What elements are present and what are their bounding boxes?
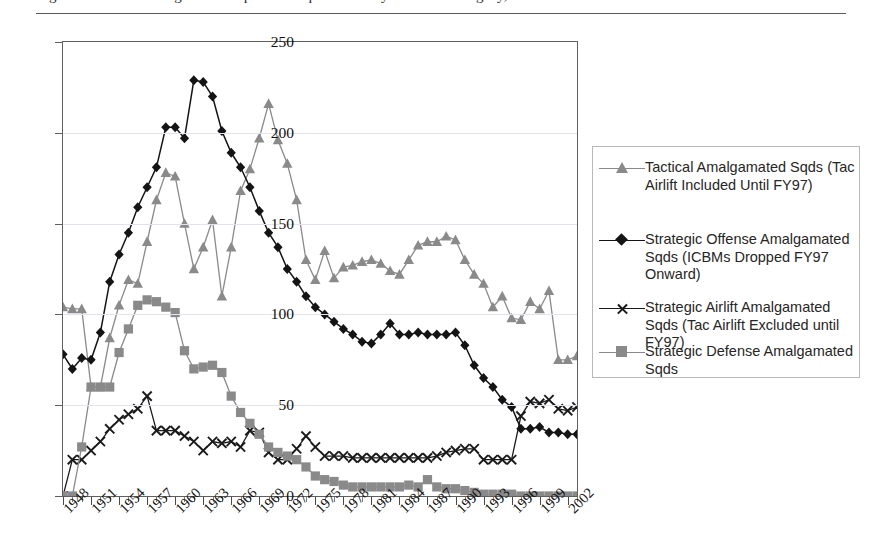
triangle-marker bbox=[282, 158, 292, 168]
square-marker bbox=[255, 430, 264, 439]
square-marker bbox=[114, 348, 123, 357]
legend-marker-slot bbox=[616, 302, 629, 315]
diamond-marker bbox=[236, 162, 245, 172]
square-marker bbox=[171, 308, 180, 317]
series-line bbox=[63, 104, 577, 387]
triangle-marker bbox=[413, 240, 423, 250]
x-marker bbox=[180, 431, 189, 440]
legend-item-2[interactable]: Strategic Offense Amalgamated Sqds (ICBM… bbox=[599, 231, 857, 284]
diamond-marker bbox=[143, 182, 152, 192]
square-marker bbox=[423, 475, 432, 484]
diamond-marker bbox=[526, 424, 535, 434]
triangle-marker bbox=[534, 304, 544, 314]
triangle-marker bbox=[291, 195, 301, 205]
y-tick-label: 250 bbox=[248, 33, 294, 51]
triangle-marker bbox=[460, 255, 470, 265]
series-3 bbox=[63, 392, 577, 496]
triangle-marker bbox=[151, 195, 161, 205]
square-marker bbox=[311, 471, 320, 480]
diamond-marker bbox=[432, 329, 441, 339]
legend-key bbox=[599, 233, 645, 248]
y-tick-mark bbox=[55, 42, 62, 43]
x-marker bbox=[86, 446, 95, 455]
diamond-marker bbox=[273, 242, 282, 252]
header-rule bbox=[36, 13, 846, 14]
figure-page: Figure 5. USAF Amalgamated Squadron Equi… bbox=[0, 0, 881, 560]
triangle-marker bbox=[198, 242, 208, 252]
y-tick-mark bbox=[55, 496, 62, 497]
series-1 bbox=[63, 98, 577, 391]
triangle-marker bbox=[310, 274, 320, 284]
diamond-marker bbox=[124, 228, 133, 238]
gridline bbox=[63, 133, 577, 134]
square-marker bbox=[339, 481, 348, 490]
diamond-marker bbox=[442, 329, 451, 339]
triangle-marker bbox=[114, 300, 124, 310]
square-marker bbox=[133, 301, 142, 310]
square-marker bbox=[96, 382, 105, 391]
y-tick-label: 100 bbox=[248, 305, 294, 323]
square-marker bbox=[63, 491, 68, 496]
x-marker bbox=[301, 431, 310, 440]
square-marker bbox=[152, 297, 161, 306]
triangle-marker bbox=[376, 258, 386, 268]
x-marker bbox=[114, 415, 123, 424]
triangle-marker bbox=[161, 167, 171, 177]
diamond-marker bbox=[563, 429, 572, 439]
square-marker bbox=[236, 408, 245, 417]
legend-key bbox=[599, 161, 645, 176]
x-marker bbox=[143, 392, 152, 401]
square-marker bbox=[180, 346, 189, 355]
square-marker bbox=[189, 364, 198, 373]
triangle-marker bbox=[616, 162, 628, 173]
chart-legend: Tactical Amalgamated Sqds (Tac Airlift I… bbox=[592, 146, 860, 378]
triangle-marker bbox=[133, 278, 143, 288]
square-marker bbox=[199, 362, 208, 371]
legend-item-4[interactable]: Strategic Defense Amalgamated Sqds bbox=[599, 343, 857, 378]
triangle-marker bbox=[217, 291, 227, 301]
diamond-marker bbox=[544, 427, 553, 437]
legend-marker-slot bbox=[616, 346, 627, 357]
diamond-marker bbox=[357, 337, 366, 347]
triangle-marker bbox=[245, 164, 255, 174]
legend-item-1[interactable]: Tactical Amalgamated Sqds (Tac Airlift I… bbox=[599, 159, 857, 194]
legend-label: Strategic Offense Amalgamated Sqds (ICBM… bbox=[645, 231, 857, 284]
square-marker bbox=[320, 475, 329, 484]
x-marker bbox=[199, 446, 208, 455]
legend-label: Strategic Defense Amalgamated Sqds bbox=[645, 343, 857, 378]
x-marker bbox=[516, 411, 525, 420]
y-tick-label: 200 bbox=[248, 124, 294, 142]
x-marker bbox=[572, 402, 577, 411]
y-tick-label: 0 bbox=[248, 487, 294, 505]
series-2 bbox=[63, 75, 577, 439]
diamond-marker bbox=[161, 122, 170, 132]
diamond-marker bbox=[423, 329, 432, 339]
triangle-marker bbox=[394, 269, 404, 279]
diamond-marker bbox=[404, 329, 413, 339]
x-marker bbox=[544, 395, 553, 404]
triangle-marker bbox=[366, 255, 376, 265]
triangle-marker bbox=[469, 269, 479, 279]
square-marker bbox=[301, 462, 310, 471]
y-tick-label: 50 bbox=[248, 396, 294, 414]
triangle-marker bbox=[263, 98, 273, 108]
square-marker bbox=[395, 482, 404, 491]
diamond-marker bbox=[414, 328, 423, 338]
square-marker bbox=[264, 442, 273, 451]
diamond-marker bbox=[615, 233, 628, 246]
square-marker bbox=[245, 419, 254, 428]
diamond-marker bbox=[105, 277, 114, 287]
diamond-marker bbox=[227, 148, 236, 158]
square-marker bbox=[292, 455, 301, 464]
legend-marker-slot bbox=[616, 234, 626, 244]
diamond-marker bbox=[507, 402, 516, 412]
diamond-marker bbox=[535, 422, 544, 432]
square-marker bbox=[217, 368, 226, 377]
triangle-marker bbox=[497, 291, 507, 301]
triangle-marker bbox=[170, 171, 180, 181]
triangle-marker bbox=[385, 265, 395, 275]
x-marker bbox=[311, 442, 320, 451]
triangle-marker bbox=[235, 186, 245, 196]
legend-marker-slot bbox=[616, 162, 628, 173]
square-marker bbox=[273, 448, 282, 457]
